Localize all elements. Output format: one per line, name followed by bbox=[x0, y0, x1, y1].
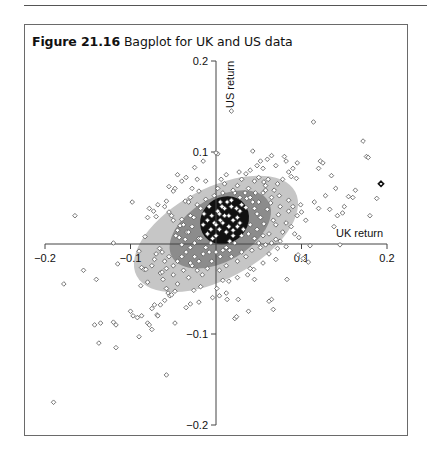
data-point bbox=[62, 282, 67, 287]
data-point bbox=[237, 170, 242, 175]
data-point bbox=[303, 218, 308, 223]
data-point bbox=[244, 172, 249, 177]
data-point bbox=[374, 196, 379, 201]
data-point bbox=[361, 139, 366, 144]
data-point bbox=[271, 307, 276, 312]
bagplot-chart: −0.2−0.10.10.20.20.1−0.1−0.2 UK return U… bbox=[0, 0, 427, 460]
data-point bbox=[197, 300, 202, 305]
data-point bbox=[236, 297, 241, 302]
data-point bbox=[252, 277, 257, 282]
data-point bbox=[329, 173, 334, 178]
data-point bbox=[190, 186, 195, 191]
data-point bbox=[97, 341, 102, 346]
data-point bbox=[203, 179, 208, 184]
data-point bbox=[167, 184, 172, 189]
data-point bbox=[184, 305, 189, 310]
data-point bbox=[292, 232, 297, 237]
data-point bbox=[150, 327, 155, 332]
data-point bbox=[246, 309, 251, 314]
data-point bbox=[250, 149, 255, 154]
data-point bbox=[150, 306, 155, 311]
data-point bbox=[164, 373, 169, 378]
data-point bbox=[297, 235, 302, 240]
data-point bbox=[284, 244, 289, 249]
data-point bbox=[282, 154, 287, 159]
data-point bbox=[156, 202, 161, 207]
data-point bbox=[353, 188, 358, 193]
data-point bbox=[294, 176, 299, 181]
y-tick-label: 0.1 bbox=[193, 146, 208, 158]
data-point bbox=[275, 246, 280, 251]
data-point bbox=[135, 315, 140, 320]
data-point bbox=[316, 166, 321, 171]
data-point bbox=[298, 202, 303, 207]
y-tick-label: −0.2 bbox=[186, 419, 208, 431]
data-point bbox=[175, 172, 180, 177]
data-point bbox=[180, 179, 185, 184]
data-point bbox=[201, 159, 206, 164]
data-point bbox=[111, 241, 116, 246]
data-point bbox=[316, 206, 321, 211]
data-point bbox=[291, 166, 296, 171]
data-point bbox=[158, 303, 163, 308]
data-point bbox=[184, 175, 189, 180]
data-point bbox=[351, 195, 356, 200]
data-point bbox=[94, 277, 99, 282]
data-point bbox=[224, 291, 229, 296]
x-axis-title: UK return bbox=[336, 227, 383, 239]
data-point bbox=[139, 314, 144, 319]
data-point bbox=[342, 204, 347, 209]
data-point bbox=[378, 181, 383, 186]
data-point bbox=[368, 213, 373, 218]
data-point bbox=[311, 120, 316, 125]
data-point bbox=[338, 243, 343, 248]
y-tick-label: −0.1 bbox=[186, 328, 208, 340]
data-point bbox=[255, 163, 260, 168]
data-point bbox=[154, 214, 159, 219]
data-point bbox=[261, 166, 266, 171]
data-point bbox=[162, 204, 167, 209]
data-point bbox=[215, 286, 220, 291]
data-point bbox=[340, 211, 345, 216]
data-point bbox=[312, 200, 317, 205]
data-point bbox=[225, 297, 230, 302]
data-points bbox=[51, 109, 383, 405]
data-point bbox=[92, 323, 97, 328]
data-point bbox=[128, 309, 133, 314]
data-point bbox=[81, 268, 86, 273]
data-point bbox=[130, 200, 135, 205]
data-point bbox=[224, 172, 229, 177]
data-point bbox=[145, 215, 150, 220]
data-point bbox=[217, 293, 222, 298]
data-point bbox=[274, 257, 279, 262]
y-tick-label: 0.2 bbox=[193, 55, 208, 67]
data-point bbox=[147, 206, 152, 211]
data-point bbox=[245, 273, 250, 278]
data-point bbox=[285, 277, 290, 282]
data-point bbox=[248, 168, 253, 173]
data-point bbox=[173, 321, 178, 326]
data-point bbox=[192, 165, 197, 170]
x-tick-label: 0.2 bbox=[379, 252, 394, 264]
data-point bbox=[299, 210, 304, 215]
data-point bbox=[51, 400, 56, 405]
data-point bbox=[137, 334, 142, 339]
x-tick-label: −0.1 bbox=[120, 252, 142, 264]
data-point bbox=[164, 199, 169, 204]
data-point bbox=[286, 170, 291, 175]
data-point bbox=[152, 303, 157, 308]
y-axis-title: US return bbox=[224, 61, 236, 108]
data-point bbox=[284, 159, 289, 164]
data-point bbox=[73, 213, 78, 218]
data-point bbox=[265, 157, 270, 162]
x-tick-label: −0.2 bbox=[34, 252, 56, 264]
axes bbox=[45, 61, 387, 425]
data-point bbox=[289, 174, 294, 179]
data-point bbox=[162, 298, 167, 303]
data-point bbox=[235, 275, 240, 280]
data-point bbox=[151, 209, 156, 214]
data-point bbox=[333, 186, 338, 191]
data-point bbox=[188, 302, 193, 307]
data-point bbox=[327, 207, 332, 212]
data-point bbox=[98, 321, 103, 326]
